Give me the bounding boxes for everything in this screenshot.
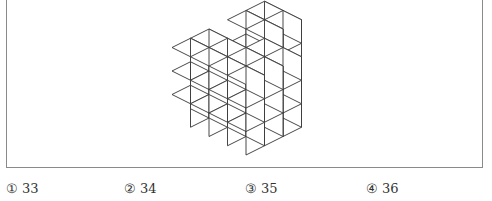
option-1-value: 33 xyxy=(22,181,39,196)
option-3-value: 35 xyxy=(261,181,278,196)
option-3[interactable]: ③35 xyxy=(245,181,278,196)
option-4-value: 36 xyxy=(382,181,399,196)
option-4-mark: ④ xyxy=(366,181,378,196)
cube-stack-figure xyxy=(0,0,492,170)
option-1-mark: ① xyxy=(6,181,18,196)
option-2[interactable]: ②34 xyxy=(124,181,157,196)
option-1[interactable]: ①33 xyxy=(6,181,39,196)
option-2-value: 34 xyxy=(140,181,157,196)
answer-options: ①33 ②34 ③35 ④36 xyxy=(0,181,492,201)
option-2-mark: ② xyxy=(124,181,136,196)
option-3-mark: ③ xyxy=(245,181,257,196)
option-4[interactable]: ④36 xyxy=(366,181,399,196)
